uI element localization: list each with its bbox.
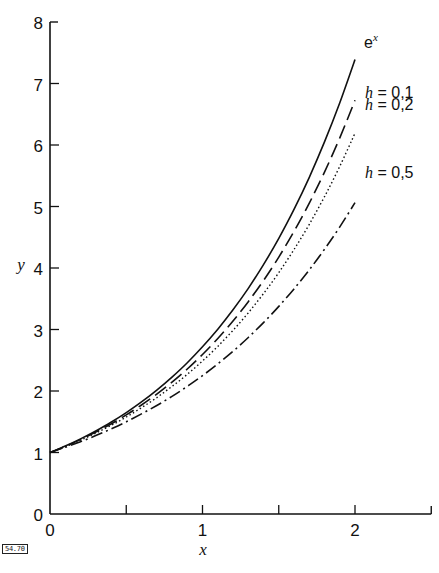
series-label: h = 0,2 <box>365 96 414 113</box>
y-tick-label: 6 <box>34 137 43 156</box>
y-tick-label: 4 <box>34 260 43 279</box>
y-axis-label: y <box>15 255 25 274</box>
y-tick-label: 0 <box>34 506 43 525</box>
y-tick-label: 1 <box>34 445 43 464</box>
x-tick-label: 0 <box>45 521 54 540</box>
curve-euler-1 <box>50 100 355 452</box>
y-tick-label: 5 <box>34 199 43 218</box>
curve-euler-3 <box>50 203 355 453</box>
y-tick-label: 2 <box>34 383 43 402</box>
x-axis-label: x <box>198 540 207 559</box>
x-tick-label: 1 <box>198 521 207 540</box>
curves <box>50 60 355 453</box>
series-labels: exh = 0,1h = 0,2h = 0,5 <box>364 31 414 181</box>
curve-euler-2 <box>50 133 355 452</box>
y-tick-label: 8 <box>34 14 43 33</box>
curve-exp <box>50 60 355 453</box>
y-tick-label: 7 <box>34 76 43 95</box>
figure-id-box: 54.70 <box>2 544 28 554</box>
euler-method-chart: 012345678012 exh = 0,1h = 0,2h = 0,5 x y <box>0 0 439 573</box>
series-label: ex <box>364 31 378 51</box>
axis-ticks: 012345678012 <box>34 14 360 540</box>
y-tick-label: 3 <box>34 322 43 341</box>
series-label: h = 0,5 <box>365 164 414 181</box>
x-tick-label: 2 <box>350 521 359 540</box>
